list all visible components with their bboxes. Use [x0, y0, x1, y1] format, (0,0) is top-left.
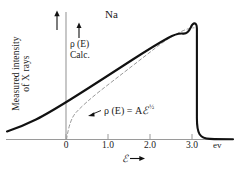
- formula-script-e: ℰ: [142, 105, 148, 116]
- x-axis-label: ℰ: [122, 154, 128, 164]
- x-ray-emission-spectrum-figure: Measured intensity of X rays Na ρ (E) Ca…: [0, 0, 235, 169]
- y-axis-label-line2: of X rays: [21, 22, 31, 126]
- x-tick-label-3: 3.0: [186, 141, 198, 151]
- calculated-curve-annotation: ρ (E) Calc.: [70, 40, 90, 60]
- formula-exponent: ½: [149, 103, 154, 110]
- x-tick-label-2: 2.0: [144, 141, 156, 151]
- y-axis-label: Measured intensity of X rays: [12, 22, 31, 126]
- up-arrow-icon-calc: [77, 23, 82, 39]
- up-arrow-icon-yaxis: [54, 11, 59, 31]
- measured-intensity-curve: [7, 23, 233, 139]
- formula-annotation: ρ (E) = Aℰ½: [104, 104, 154, 117]
- calc-rho-label: ρ (E): [70, 40, 90, 50]
- x-axis-unit-label: ev: [213, 141, 222, 150]
- x-tick-label-0: 0: [64, 141, 69, 151]
- formula-lhs: ρ (E) = A: [104, 105, 142, 116]
- x-tick-label-1: 1.0: [102, 141, 114, 151]
- left-arrow-icon-formula-pointer: [88, 111, 101, 117]
- calc-word-label: Calc.: [70, 51, 90, 61]
- plot-canvas: [0, 0, 235, 169]
- right-arrow-icon-xaxis: [130, 156, 145, 161]
- y-axis-label-line1: Measured intensity: [11, 36, 21, 110]
- sample-label: Na: [105, 9, 118, 20]
